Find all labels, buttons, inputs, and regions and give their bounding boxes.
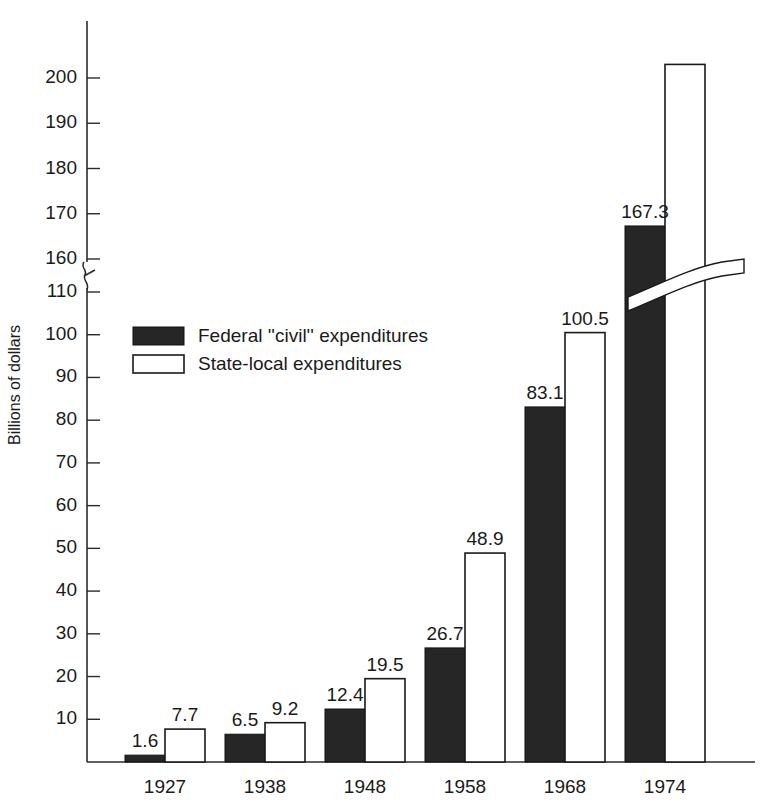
x-axis-label-1948: 1948 xyxy=(344,776,386,797)
value-label-1938-state: 9.2 xyxy=(272,698,298,719)
value-label-1958-state: 48.9 xyxy=(467,528,504,549)
bar-1974-state xyxy=(665,64,705,762)
value-label-1958-federal: 26.7 xyxy=(427,623,464,644)
legend-swatch-state xyxy=(133,355,184,373)
y-tick-label-190: 190 xyxy=(45,111,77,132)
bar-1958-federal xyxy=(425,648,465,762)
value-label-1968-federal: 83.1 xyxy=(527,382,564,403)
y-tick-label-40: 40 xyxy=(56,579,77,600)
bar-1948-federal xyxy=(325,709,365,762)
x-axis-label-1968: 1968 xyxy=(544,776,586,797)
bar-1948-state xyxy=(365,679,405,762)
bar-1927-federal xyxy=(125,755,165,762)
y-axis-break-group xyxy=(80,262,95,290)
y-tick-label-100: 100 xyxy=(45,323,77,344)
value-label-1927-state: 7.7 xyxy=(172,704,198,725)
legend-swatch-federal xyxy=(133,327,184,345)
y-tick-label-50: 50 xyxy=(56,536,77,557)
x-axis-label-1958: 1958 xyxy=(444,776,486,797)
bar-chart: Billions of dollars 10203040506070809010… xyxy=(0,0,763,802)
y-tick-label-180: 180 xyxy=(45,157,77,178)
value-label-1938-federal: 6.5 xyxy=(232,709,258,730)
x-axis-category-labels: 192719381948195819681974 xyxy=(144,776,687,797)
bar-1958-state xyxy=(465,553,505,762)
value-label-1948-state: 19.5 xyxy=(367,654,404,675)
y-tick-label-60: 60 xyxy=(56,494,77,515)
value-label-1948-federal: 12.4 xyxy=(327,684,364,705)
y-tick-label-90: 90 xyxy=(56,365,77,386)
bars-group xyxy=(125,64,705,762)
y-tick-label-160: 160 xyxy=(45,247,77,268)
y-tick-label-30: 30 xyxy=(56,622,77,643)
y-tick-label-10: 10 xyxy=(56,707,77,728)
value-label-1974-federal: 167.3 xyxy=(621,201,669,222)
bar-1927-state xyxy=(165,729,205,762)
y-tick-label-20: 20 xyxy=(56,665,77,686)
y-tick-label-170: 170 xyxy=(45,202,77,223)
value-label-1927-federal: 1.6 xyxy=(132,730,158,751)
bar-1968-state xyxy=(565,333,605,762)
legend: Federal ''civil'' expenditures State-loc… xyxy=(133,325,428,374)
y-axis-ticks: 102030405060708090100110160170180190200 xyxy=(45,66,100,728)
y-tick-label-110: 110 xyxy=(47,280,77,301)
y-tick-label-70: 70 xyxy=(56,451,77,472)
chart-container: Billions of dollars 10203040506070809010… xyxy=(0,0,763,802)
legend-label-state: State-local expenditures xyxy=(198,353,402,374)
x-axis-label-1974: 1974 xyxy=(644,776,687,797)
legend-label-federal: Federal ''civil'' expenditures xyxy=(198,325,428,346)
y-axis-title: Billions of dollars xyxy=(6,325,23,445)
y-axis-title-group: Billions of dollars xyxy=(6,325,23,445)
value-label-1968-state: 100.5 xyxy=(561,308,609,329)
y-tick-label-200: 200 xyxy=(45,66,77,87)
bar-1968-federal xyxy=(525,407,565,762)
bar-1938-state xyxy=(265,723,305,762)
y-tick-label-80: 80 xyxy=(56,408,77,429)
x-axis-label-1927: 1927 xyxy=(144,776,186,797)
x-axis-label-1938: 1938 xyxy=(244,776,286,797)
bar-1938-federal xyxy=(225,734,265,762)
